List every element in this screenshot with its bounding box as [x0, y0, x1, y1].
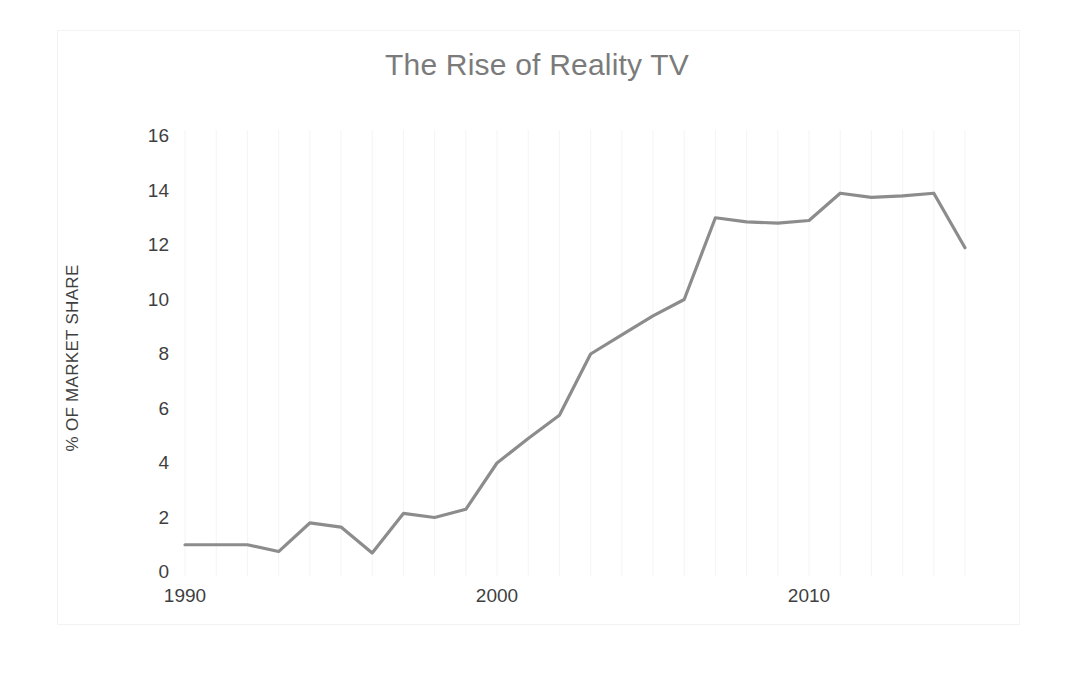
y-axis-tick-label: 8: [123, 344, 169, 363]
y-axis-tick-label: 12: [123, 235, 169, 254]
vertical-gridlines: [185, 130, 965, 576]
y-axis-title: % OF MARKET SHARE: [63, 223, 83, 493]
y-axis-tick-label: 14: [123, 181, 169, 200]
data-series-line: [185, 193, 965, 553]
y-axis-tick-label: 0: [123, 562, 169, 581]
chart-figure: The Rise of Reality TV 0246810121416 199…: [0, 0, 1074, 678]
x-axis-tick-label: 1990: [140, 586, 230, 605]
x-axis-tick-label: 2010: [764, 586, 854, 605]
y-axis-tick-label: 2: [123, 508, 169, 527]
plot-area: 0246810121416 199020002010 % OF MARKET S…: [0, 0, 1074, 678]
y-axis-tick-label: 4: [123, 453, 169, 472]
x-axis-tick-label: 2000: [452, 586, 542, 605]
y-axis-tick-label: 6: [123, 399, 169, 418]
y-axis-tick-label: 16: [123, 126, 169, 145]
y-axis-tick-label: 10: [123, 290, 169, 309]
